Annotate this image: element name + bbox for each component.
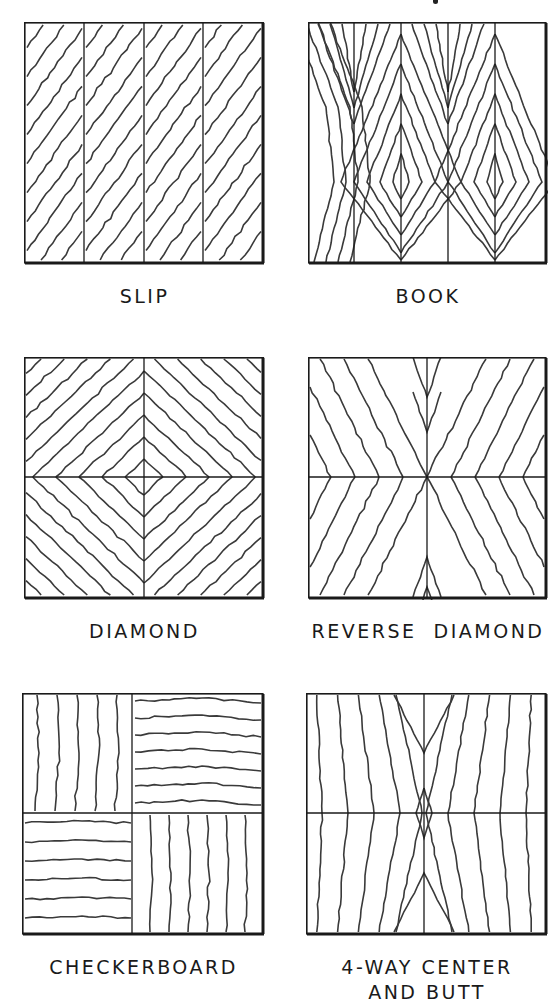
slip-diagram — [24, 22, 265, 265]
stray-mark — [433, 0, 438, 4]
panel-slip — [24, 22, 265, 265]
label-slip: SLIP — [24, 284, 265, 309]
reverse-diamond-diagram — [308, 357, 548, 600]
label-diamond: DIAMOND — [24, 619, 265, 644]
label-checkerboard: CHECKERBOARD — [22, 955, 265, 980]
panel-diamond — [24, 357, 265, 600]
diamond-diagram — [24, 357, 265, 600]
panel-reverse-diamond — [308, 357, 548, 600]
book-diagram — [308, 22, 548, 265]
panel-book — [308, 22, 548, 265]
panel-four-way — [306, 693, 548, 936]
checkerboard-diagram — [22, 693, 265, 936]
panel-checkerboard — [22, 693, 265, 936]
label-reverse-diamond: REVERSE DIAMOND — [296, 619, 557, 644]
label-book: BOOK — [308, 284, 548, 309]
four-way-diagram — [306, 693, 548, 936]
label-four-way: 4-WAY CENTER AND BUTT — [306, 955, 548, 1005]
